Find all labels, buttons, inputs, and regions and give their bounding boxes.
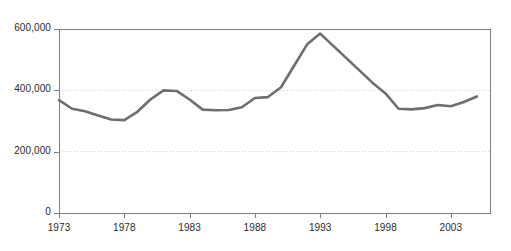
data-series-line: [59, 34, 477, 120]
chart-plot-area: [0, 0, 511, 251]
plot-border: [60, 30, 491, 214]
y-axis-tick-label: 200,000: [14, 145, 51, 156]
x-axis-tick-label: 1993: [290, 222, 350, 233]
x-axis-tick-label: 1988: [225, 222, 285, 233]
x-axis-tick-label: 1998: [356, 222, 416, 233]
x-axis-tick-label: 1983: [160, 222, 220, 233]
x-axis-tick-label: 2003: [421, 222, 481, 233]
y-axis-tick-label: 400,000: [14, 83, 51, 94]
series-line-value: [59, 34, 477, 120]
line-chart: 0200,000400,000600,000 19731978198319881…: [0, 0, 511, 251]
x-axis-tick-label: 1973: [29, 222, 89, 233]
plot-frame: [60, 30, 491, 214]
y-axis-tick-label: 600,000: [14, 22, 51, 33]
x-axis-tick-label: 1978: [94, 222, 154, 233]
y-axis-tick-label: 0: [45, 206, 51, 217]
y-axis-ticks: [54, 30, 59, 214]
